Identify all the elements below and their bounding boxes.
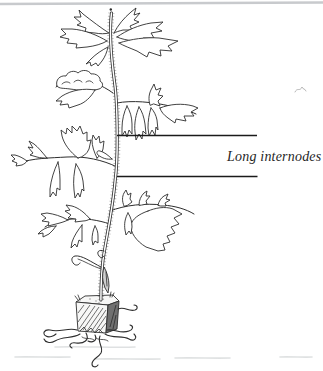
lower-left-leaf xyxy=(38,205,98,248)
left-compound-leaf xyxy=(11,126,112,198)
apex-leaves xyxy=(60,8,178,66)
seedling-illustration xyxy=(0,0,323,371)
top-rule-line xyxy=(0,3,323,5)
internode-label: Long internodes xyxy=(227,149,321,165)
soil-block xyxy=(75,292,119,333)
book-figure: Long internodes xyxy=(0,0,323,371)
lower-right-leaf xyxy=(123,190,183,251)
cotyledon-leaves xyxy=(72,250,109,293)
right-branch-leaves xyxy=(122,84,198,140)
upper-left-leaf xyxy=(56,70,103,108)
leaf-stalks xyxy=(19,80,196,227)
